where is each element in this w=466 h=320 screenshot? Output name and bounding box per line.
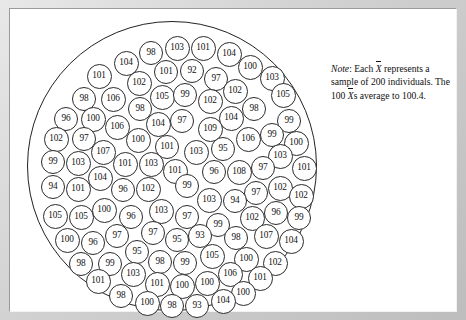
xbar-sample-mean: 99 — [41, 150, 65, 174]
xbar-sample-mean: 102 — [44, 127, 69, 152]
note-part3: s average to 100.4. — [354, 90, 426, 101]
xbar-sample-mean: 100 — [92, 198, 117, 223]
xbar-sample-mean: 101 — [66, 177, 91, 202]
figure-page: 9810310110410410010110192971031029810610… — [0, 0, 466, 320]
xbar-sample-mean: 104 — [146, 112, 171, 137]
xbar-sample-mean: 107 — [254, 224, 279, 249]
xbar-sample-mean: 102 — [136, 177, 161, 202]
xbar-sample-mean: 98 — [242, 97, 266, 121]
xbar-sample-mean: 98 — [160, 294, 184, 318]
xbar-sample-mean: 94 — [41, 175, 65, 199]
xbar-sample-mean: 99 — [287, 206, 311, 230]
xbar-sample-mean: 97 — [105, 224, 129, 248]
xbar-symbol-2: X — [348, 89, 354, 102]
xbar-sample-mean: 100 — [238, 55, 263, 80]
xbar-sample-mean: 92 — [180, 59, 204, 83]
xbar-sample-mean: 99 — [173, 83, 197, 107]
xbar-sample-mean: 106 — [101, 87, 126, 112]
xbar-sample-mean: 105 — [271, 83, 296, 108]
figure-note: Note: Each X represents a sample of 200 … — [331, 62, 459, 102]
xbar-sample-mean: 100 — [126, 128, 151, 153]
xbar-sample-mean: 96 — [202, 160, 226, 184]
xbar-sample-mean: 101 — [154, 60, 178, 84]
xbar-sample-mean: 101 — [191, 36, 216, 61]
xbar-sample-mean: 105 — [69, 205, 94, 230]
xbar-sample-mean: 101 — [292, 156, 317, 181]
xbar-sample-mean: 103 — [139, 152, 164, 177]
xbar-sample-mean: 105 — [150, 85, 175, 110]
xbar-sample-mean: 102 — [198, 89, 223, 114]
xbar-sample-mean: 97 — [251, 156, 275, 180]
xbar-sample-mean: 103 — [149, 199, 174, 224]
xbar-sample-mean: 99 — [173, 251, 197, 275]
figure-plate: 9810310110410410010110192971031029810610… — [11, 10, 454, 309]
xbar-sample-mean: 105 — [43, 204, 68, 229]
xbar-sample-mean: 102 — [127, 71, 152, 96]
xbar-sample-mean: 101 — [113, 152, 138, 177]
xbar-sample-mean: 98 — [148, 250, 172, 274]
xbar-sample-mean: 104 — [279, 229, 304, 254]
xbar-sample-mean: 96 — [111, 178, 135, 202]
xbar-sample-mean: 95 — [211, 137, 235, 161]
xbar-sample-mean: 99 — [175, 174, 199, 198]
xbar-sample-mean: 97 — [141, 221, 165, 245]
xbar-sample-mean: 95 — [125, 240, 149, 264]
xbar-symbol-1: X — [376, 62, 382, 75]
xbar-sample-mean: 104 — [211, 289, 236, 314]
xbar-sample-mean: 101 — [87, 64, 112, 89]
xbar-sample-mean: 103 — [184, 140, 209, 165]
xbar-sample-mean: 107 — [91, 140, 116, 165]
xbar-sample-mean: 103 — [121, 262, 146, 287]
xbar-sample-mean: 95 — [165, 228, 189, 252]
xbar-sample-mean: 101 — [86, 269, 111, 294]
xbar-sample-mean: 104 — [88, 166, 113, 191]
xbar-sample-mean: 102 — [223, 79, 248, 104]
xbar-sample-mean: 106 — [236, 127, 261, 152]
xbar-sample-mean: 100 — [55, 228, 80, 253]
xbar-sample-mean: 103 — [197, 188, 222, 213]
xbar-sample-mean: 108 — [227, 160, 252, 185]
xbar-sample-mean: 103 — [165, 36, 190, 61]
xbar-sample-mean: 93 — [185, 294, 209, 318]
xbar-sample-mean: 96 — [81, 231, 105, 255]
xbar-sample-mean: 97 — [170, 109, 194, 133]
xbar-sample-mean: 100 — [135, 291, 160, 316]
xbar-sample-mean: 97 — [244, 181, 268, 205]
note-part1: Each — [352, 63, 376, 74]
xbar-sample-mean: 102 — [289, 184, 314, 209]
xbar-sample-mean: 96 — [264, 201, 288, 225]
xbar-sample-mean: 98 — [109, 284, 133, 308]
xbar-sample-mean: 103 — [66, 151, 91, 176]
note-lead: Note — [331, 63, 349, 74]
